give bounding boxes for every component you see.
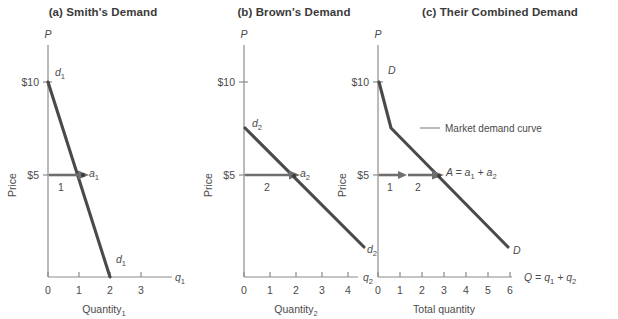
x-tick-label-2-c: 2 — [419, 284, 425, 296]
x-tick-label-1-b: 1 — [267, 284, 273, 296]
x-tick-label-1-a: 1 — [76, 284, 82, 296]
x-axis-symbol-sub-a: 1 — [181, 277, 185, 286]
curve-label-d1-top: d1 — [55, 66, 65, 81]
point-label-a1-sub: 1 — [95, 173, 99, 182]
x-axis-label-sub-a: 1 — [121, 309, 125, 318]
x-axis-symbol-b: q2 — [363, 271, 373, 286]
curve-label-D-top: D — [388, 64, 396, 76]
curve-label-D-bottom: D — [513, 244, 521, 256]
figure-demand-curves: (a) Smith's Demand $10 $5 0 1 2 — [0, 0, 618, 319]
x-axis-symbol-tail-sub-c: 2 — [572, 277, 576, 286]
y-tick-label-10-b: $10 — [217, 76, 235, 88]
x-axis-label-sub-b: 2 — [313, 309, 317, 318]
panel-a-plot: $10 $5 0 1 2 3 P q1 Price Quantity1 d1 d… — [0, 0, 206, 319]
x-tick-label-0-b: 0 — [241, 284, 247, 296]
x-tick-label-0-a: 0 — [45, 284, 51, 296]
y-tick-label-10-a: $10 — [21, 76, 39, 88]
arrow-label-b: 2 — [264, 181, 270, 193]
point-label-A-tail: + a — [475, 166, 493, 178]
x-tick-label-2-b: 2 — [293, 284, 299, 296]
x-tick-label-6-c: 6 — [507, 284, 513, 296]
x-tick-label-1-c: 1 — [397, 284, 403, 296]
quantity-arrow-head-c-1 — [398, 171, 407, 179]
x-tick-label-2-a: 2 — [107, 284, 113, 296]
demand-curve-d1 — [48, 82, 110, 277]
point-a2-dot — [292, 174, 296, 178]
point-label-A: A = a1 + a2 — [445, 166, 497, 181]
x-tick-label-4-b: 4 — [345, 284, 351, 296]
y-axis-label-a: Price — [6, 173, 18, 197]
point-label-a2: a2 — [300, 167, 310, 182]
x-tick-label-3-c: 3 — [441, 284, 447, 296]
x-tick-label-0-c: 0 — [375, 284, 381, 296]
panel-browns-demand: (b) Brown's Demand $10 $5 0 1 — [196, 0, 392, 319]
curve-label-d1-bottom-sub: 1 — [122, 259, 126, 268]
x-axis-symbol-c: Q = q1 + q2 — [524, 271, 576, 286]
y-axis-label-b: Price — [202, 173, 214, 197]
arrow-label-c-1: 1 — [387, 181, 393, 193]
panel-c-plot: $10 $5 0 1 2 3 4 5 6 P Q = q1 + q2 Price… — [382, 0, 618, 319]
market-demand-annotation: Market demand curve — [445, 123, 542, 134]
point-label-A-base: A = a — [445, 166, 471, 178]
point-label-a1: a1 — [89, 167, 99, 182]
point-a1-dot — [81, 173, 85, 177]
panel-combined-demand: (c) Their Combined Demand — [382, 0, 618, 319]
y-axis-symbol-c: P — [374, 28, 381, 40]
x-axis-symbol-sub-b: 2 — [369, 277, 373, 286]
x-axis-label-b: Quantity2 — [274, 303, 317, 318]
point-label-a2-sub: 2 — [306, 173, 310, 182]
x-tick-label-3-b: 3 — [319, 284, 325, 296]
point-A-dot — [437, 174, 441, 178]
panel-smiths-demand: (a) Smith's Demand $10 $5 0 1 2 — [0, 0, 206, 319]
curve-label-d1-bottom: d1 — [116, 253, 126, 268]
arrow-label-c-2: 2 — [415, 181, 421, 193]
panel-b-plot: $10 $5 0 1 2 3 4 P q2 Price Quantity2 d2… — [196, 0, 392, 319]
x-axis-symbol-tail-c: + q — [554, 271, 572, 283]
x-axis-label-c: Total quantity — [413, 303, 476, 315]
curve-label-d2-top-sub: 2 — [258, 123, 262, 132]
y-axis-symbol-b: P — [240, 28, 247, 40]
x-tick-label-3-a: 3 — [138, 284, 144, 296]
y-axis-label-c: Price — [336, 173, 348, 197]
x-axis-symbol-a: q1 — [175, 271, 185, 286]
x-tick-label-4-c: 4 — [463, 284, 469, 296]
arrow-label-a: 1 — [58, 181, 64, 193]
curve-label-d2-top: d2 — [252, 117, 262, 132]
x-axis-label-base-a: Quantity — [82, 303, 122, 315]
market-demand-curve-D — [379, 82, 508, 247]
x-axis-label-base-b: Quantity — [274, 303, 314, 315]
y-tick-label-5-b: $5 — [223, 169, 235, 181]
x-axis-symbol-base-c: Q = q — [524, 271, 550, 283]
y-axis-symbol-a: P — [44, 28, 51, 40]
point-label-A-tail-sub: 2 — [492, 172, 496, 181]
x-axis-label-a: Quantity1 — [82, 303, 125, 318]
curve-label-d2-bottom-sub: 2 — [373, 249, 377, 258]
y-tick-label-5-a: $5 — [27, 169, 39, 181]
x-tick-label-5-c: 5 — [485, 284, 491, 296]
curve-label-d1-top-sub: 1 — [61, 72, 65, 81]
curve-label-d2-bottom: d2 — [367, 243, 377, 258]
y-tick-label-10-c: $10 — [351, 76, 369, 88]
y-tick-label-5-c: $5 — [357, 169, 369, 181]
